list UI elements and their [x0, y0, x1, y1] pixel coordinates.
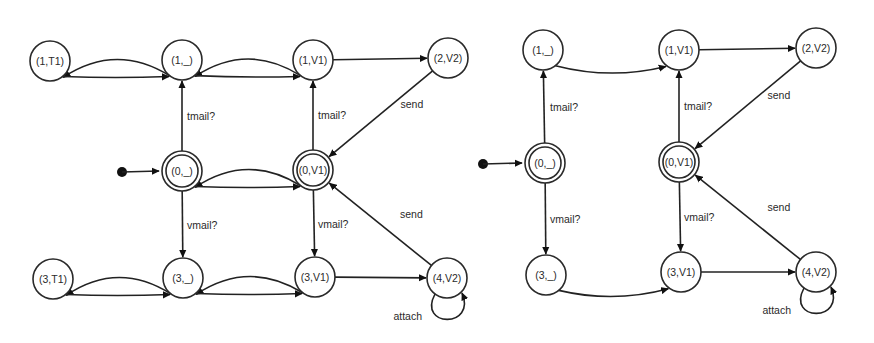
transition-arrow — [679, 182, 680, 251]
transition-label: send — [400, 208, 423, 220]
state-label: (2,V2) — [802, 42, 831, 54]
state-label: (0,_) — [171, 165, 193, 177]
state-node: (2,V2) — [428, 38, 468, 78]
state-label: (3,V1) — [301, 271, 330, 283]
transition-arrow — [195, 170, 301, 188]
transition-arrow — [196, 294, 303, 295]
transition-arrow — [196, 277, 303, 295]
transition-label: send — [401, 98, 424, 110]
state-node: (1,T1) — [30, 41, 70, 81]
transition-arrow — [63, 60, 170, 78]
transition-arrow — [195, 187, 301, 188]
transition-label: attach — [393, 310, 422, 322]
initial-transition-arrow — [122, 171, 159, 172]
state-node: (1,V1) — [293, 40, 333, 80]
nodes-layer: (1,T1)(1,_)(1,V1)(2,V2)(0,_)(0,V1)(3,T1)… — [30, 28, 836, 299]
transition-arrow — [555, 66, 666, 73]
state-label: (3,V1) — [667, 266, 696, 278]
state-label: (4,V2) — [802, 266, 831, 278]
state-label: (3,_) — [535, 269, 557, 281]
transition-arrow — [194, 76, 300, 77]
edge-labels-layer: sendtmail?tmail?vmail?vmail?sendattachtm… — [187, 89, 791, 322]
state-node: (4,V2) — [427, 258, 467, 298]
transition-arrow — [182, 191, 183, 257]
transition-arrow — [335, 277, 426, 278]
automata-diagram-canvas: (1,T1)(1,_)(1,V1)(2,V2)(0,_)(0,V1)(3,T1)… — [0, 0, 874, 343]
transition-label: vmail? — [187, 219, 218, 231]
transition-label: send — [768, 201, 791, 213]
state-label: (0,V1) — [299, 164, 328, 176]
state-node: (3,_) — [163, 258, 203, 298]
transition-label: vmail? — [318, 218, 349, 230]
transition-arrow — [559, 289, 669, 297]
transition-label: tmail? — [684, 100, 712, 112]
transition-label: attach — [762, 304, 791, 316]
transition-label: tmail? — [318, 109, 346, 121]
state-label: (1,_) — [171, 54, 193, 66]
state-node: (3,V1) — [295, 257, 335, 297]
state-label: (2,V2) — [434, 52, 463, 64]
state-label: (0,_) — [534, 157, 556, 169]
state-label: (1,V1) — [665, 44, 694, 56]
transition-arrow — [333, 58, 427, 59]
state-label: (3,T1) — [39, 273, 67, 285]
transition-arrow — [313, 190, 314, 256]
initial-transition-arrow — [483, 163, 522, 164]
state-label: (1,T1) — [36, 55, 64, 67]
state-label: (4,V2) — [433, 272, 462, 284]
transition-label: vmail? — [550, 213, 581, 225]
state-node: (1,_) — [523, 30, 563, 70]
state-node: (0,V1) — [293, 150, 333, 190]
transition-label: tmail? — [550, 101, 578, 113]
transition-arrow — [699, 48, 795, 49]
state-node: (4,V2) — [796, 252, 836, 292]
transition-arrow — [66, 278, 171, 296]
transition-arrow — [545, 183, 546, 254]
transition-label: send — [768, 89, 791, 101]
state-label: (1,V1) — [299, 54, 328, 66]
transition-arrow — [543, 71, 544, 143]
transition-arrow — [63, 77, 170, 78]
transition-arrow — [195, 59, 301, 76]
state-node: (3,_) — [526, 255, 566, 295]
state-node: (1,V1) — [659, 30, 699, 70]
state-node: (0,V1) — [659, 142, 699, 182]
state-node: (3,V1) — [661, 252, 701, 292]
state-node: (0,_) — [162, 151, 202, 191]
state-node: (1,_) — [162, 40, 202, 80]
state-node: (2,V2) — [796, 28, 836, 68]
state-label: (3,_) — [172, 272, 194, 284]
state-label: (0,V1) — [665, 156, 694, 168]
state-node: (3,T1) — [33, 259, 73, 299]
transition-label: vmail? — [684, 211, 715, 223]
transition-label: tmail? — [187, 110, 215, 122]
state-label: (1,_) — [532, 44, 554, 56]
transition-arrow — [66, 295, 171, 296]
state-node: (0,_) — [525, 143, 565, 183]
